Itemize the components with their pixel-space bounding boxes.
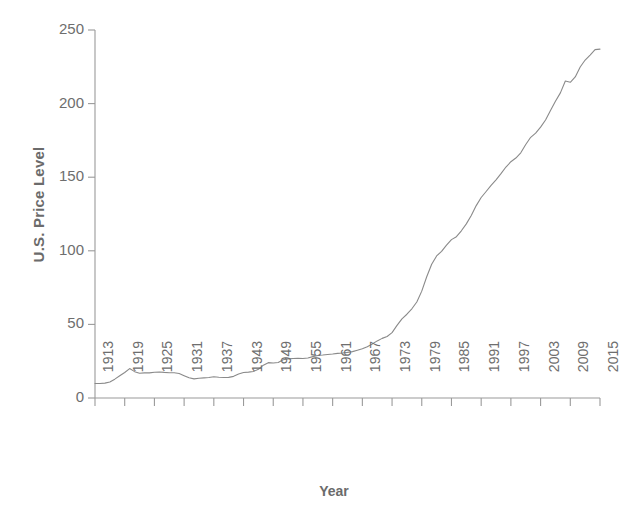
x-tick-label: 1955	[309, 341, 323, 405]
x-tick-label: 1949	[279, 341, 293, 405]
x-tick-label: 1943	[250, 341, 264, 405]
x-axis-tick-labels: 1913191919251931193719431949195519611967…	[0, 0, 632, 520]
x-tick-label: 2015	[606, 341, 620, 405]
x-tick-label: 1967	[368, 341, 382, 405]
x-tick-label: 1961	[339, 341, 353, 405]
x-tick-label: 1997	[517, 341, 531, 405]
x-tick-label: 1937	[220, 341, 234, 405]
chart-figure: U.S. Price Level Year 050100150200250 19…	[0, 0, 632, 520]
x-tick-label: 2003	[547, 341, 561, 405]
x-tick-label: 1931	[190, 341, 204, 405]
x-tick-label: 1991	[487, 341, 501, 405]
x-tick-label: 1913	[101, 341, 115, 405]
x-tick-label: 1973	[398, 341, 412, 405]
x-tick-label: 2009	[576, 341, 590, 405]
x-tick-label: 1979	[428, 341, 442, 405]
x-tick-label: 1925	[160, 341, 174, 405]
x-tick-label: 1919	[131, 341, 145, 405]
x-tick-label: 1985	[457, 341, 471, 405]
